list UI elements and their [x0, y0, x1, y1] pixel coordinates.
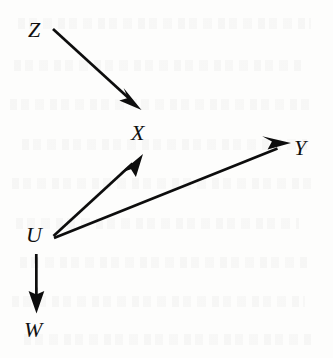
node-label-u: U	[26, 224, 42, 246]
edge-u-to-y	[54, 136, 291, 238]
edge-u-to-w	[29, 254, 45, 314]
causal-dag-figure: Z X Y U W	[0, 0, 333, 358]
node-label-x: X	[131, 122, 144, 144]
edge-z-to-x	[53, 29, 142, 110]
node-label-w: W	[24, 319, 42, 341]
dag-edges-canvas	[0, 0, 333, 358]
edge-u-to-x	[54, 154, 144, 236]
node-label-z: Z	[28, 19, 40, 41]
node-label-y: Y	[294, 137, 306, 159]
